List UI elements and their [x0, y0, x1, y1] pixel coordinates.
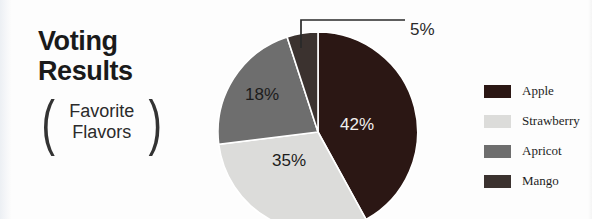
legend-item-strawberry[interactable]: Strawberry — [484, 106, 580, 136]
legend-item-mango[interactable]: Mango — [484, 166, 580, 196]
right-parenthesis-glyph: ) — [148, 97, 161, 147]
subtitle-line-2: Flavors — [53, 122, 151, 143]
pie-chart: 42% 35% 18% — [218, 32, 418, 219]
pie-value-label-apricot: 18% — [245, 85, 279, 104]
pie-svg: 42% 35% 18% — [218, 32, 418, 219]
pie-value-label-strawberry: 35% — [272, 151, 306, 170]
left-parenthesis-glyph: ( — [42, 97, 55, 147]
legend-label-apricot: Apricot — [522, 143, 562, 159]
legend-swatch-strawberry-icon — [484, 115, 511, 128]
title-line-2: Results — [38, 56, 198, 86]
pie-value-label-apple: 42% — [340, 115, 374, 134]
legend-label-apple: Apple — [522, 83, 554, 99]
legend-swatch-mango-icon — [484, 175, 511, 188]
legend-label-strawberry: Strawberry — [522, 113, 580, 129]
chart-subtitle: ( Favorite Flavors ) — [38, 97, 190, 147]
pie-callout-mango: 5% — [300, 12, 460, 60]
legend-item-apple[interactable]: Apple — [484, 76, 580, 106]
page-title: Voting Results — [38, 26, 198, 86]
legend-item-apricot[interactable]: Apricot — [484, 136, 580, 166]
callout-leader-line — [300, 12, 460, 60]
legend-swatch-apricot-icon — [484, 145, 511, 158]
legend-swatch-apple-icon — [484, 85, 511, 98]
chart-title-block: Voting Results ( Favorite Flavors ) — [38, 26, 198, 147]
scan-edge-artifact-left — [0, 0, 11, 219]
scan-edge-artifact-right — [588, 0, 592, 219]
legend-label-mango: Mango — [522, 173, 559, 189]
title-line-1: Voting — [38, 26, 198, 56]
pie-chart-figure: Voting Results ( Favorite Flavors ) 42% — [0, 0, 592, 219]
subtitle-line-1: Favorite — [53, 101, 151, 122]
subtitle-text: Favorite Flavors — [53, 101, 151, 143]
chart-legend: Apple Strawberry Apricot Mango — [484, 76, 580, 196]
pie-value-label-mango: 5% — [410, 20, 435, 40]
